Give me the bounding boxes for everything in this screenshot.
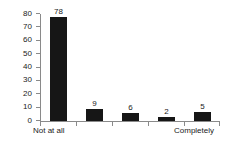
- y-tick: 10: [36, 107, 40, 108]
- bar-value-label: 5: [200, 103, 204, 111]
- y-tick: 50: [36, 53, 40, 54]
- y-axis-line: [40, 14, 41, 122]
- y-tick: 60: [36, 40, 40, 41]
- y-tick: 70: [36, 26, 40, 27]
- y-tick-label: 40: [23, 63, 32, 71]
- y-tick: 80: [36, 13, 40, 14]
- y-tick-label: 10: [23, 103, 32, 111]
- x-axis-line: [40, 121, 220, 122]
- bar: 6: [122, 113, 139, 121]
- bar-value-label: 2: [164, 108, 168, 116]
- bar: 78: [50, 17, 67, 121]
- y-tick-label: 30: [23, 76, 32, 84]
- y-tick: 0: [36, 120, 40, 121]
- x-axis-label-left: Not at all: [33, 126, 65, 135]
- bar-value-label: 6: [128, 104, 132, 112]
- bar-value-label: 78: [54, 8, 63, 16]
- y-tick-label: 60: [23, 36, 32, 44]
- bar-value-label: 9: [92, 100, 96, 108]
- y-tick: 40: [36, 67, 40, 68]
- x-tick: [112, 122, 113, 126]
- y-tick-label: 70: [23, 23, 32, 31]
- y-tick-label: 20: [23, 90, 32, 98]
- bar: 2: [158, 117, 175, 121]
- y-tick-label: 80: [23, 10, 32, 18]
- x-axis-label-right: Completely: [174, 126, 214, 135]
- bar-chart: Percent 0 10 20 30 40 50 60 70 80: [0, 0, 228, 153]
- bar: 5: [194, 112, 211, 121]
- x-tick: [219, 122, 220, 126]
- bar: 9: [86, 109, 103, 121]
- x-tick: [76, 122, 77, 126]
- x-tick: [148, 122, 149, 126]
- y-tick: 30: [36, 80, 40, 81]
- y-tick: 20: [36, 93, 40, 94]
- y-tick-label: 0: [28, 117, 32, 125]
- y-tick-label: 50: [23, 50, 32, 58]
- plot-area: 0 10 20 30 40 50 60 70 80: [40, 14, 220, 122]
